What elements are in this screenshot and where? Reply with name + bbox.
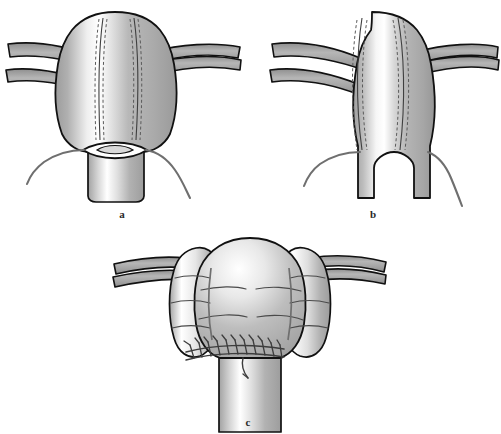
panel-label-b: b xyxy=(370,208,376,220)
figure-container: a b xyxy=(0,0,501,434)
central-flap-c xyxy=(194,238,305,358)
surgical-figure-svg: a b xyxy=(0,0,501,434)
organ-body-a xyxy=(55,12,176,152)
panel-label-c: c xyxy=(246,416,251,428)
lens-opening-lumen-a xyxy=(97,146,133,154)
panel-label-a: a xyxy=(119,208,125,220)
